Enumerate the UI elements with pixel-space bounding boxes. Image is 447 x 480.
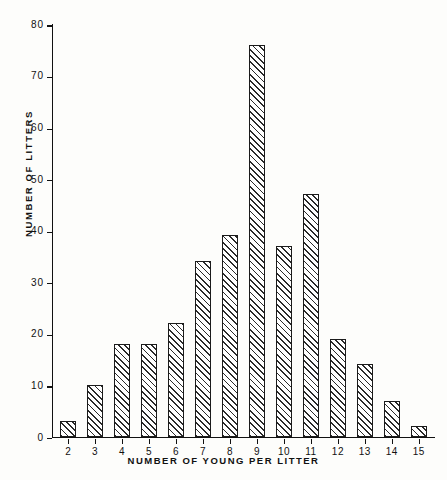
y-tick-mark (47, 386, 52, 387)
y-tick-label: 30 (31, 277, 44, 288)
bar-10 (276, 246, 292, 437)
x-tick-mark (68, 439, 69, 444)
bar-4 (114, 344, 130, 437)
bar-2 (60, 421, 76, 436)
x-axis-title: NUMBER OF YOUNG PER LITTER (0, 455, 447, 466)
x-tick-mark (203, 439, 204, 444)
y-tick-label: 70 (31, 70, 44, 81)
y-tick-mark (47, 335, 52, 336)
y-tick-mark (47, 232, 52, 233)
y-tick-mark (47, 129, 52, 130)
x-tick-mark (176, 439, 177, 444)
plot-area: 01020304050607080 23456789101112131415 (52, 24, 435, 438)
bar-15 (411, 426, 427, 436)
bar-7 (195, 261, 211, 436)
y-tick-mark (47, 25, 52, 26)
y-tick-label: 40 (31, 225, 44, 236)
bar-8 (222, 235, 238, 436)
x-tick-mark (95, 439, 96, 444)
bar-11 (303, 194, 319, 436)
y-tick-label: 50 (31, 174, 44, 185)
y-tick-mark (47, 180, 52, 181)
x-tick-mark (365, 439, 366, 444)
y-tick-label: 10 (31, 380, 44, 391)
bar-5 (141, 344, 157, 437)
x-tick-mark (149, 439, 150, 444)
y-tick-label: 60 (31, 122, 44, 133)
x-tick-mark (257, 439, 258, 444)
bar-9 (249, 45, 265, 437)
bar-3 (87, 385, 103, 437)
x-tick-mark (230, 439, 231, 444)
bar-13 (357, 364, 373, 436)
x-axis-line (52, 437, 435, 438)
x-tick-mark (311, 439, 312, 444)
x-tick-mark (338, 439, 339, 444)
x-tick-mark (122, 439, 123, 444)
y-tick-label: 0 (37, 432, 44, 443)
y-tick-mark (47, 77, 52, 78)
y-tick-label: 20 (31, 328, 44, 339)
y-tick-mark (47, 283, 52, 284)
bar-14 (384, 401, 400, 437)
x-tick-mark (284, 439, 285, 444)
x-tick-mark (419, 439, 420, 444)
y-axis-line (52, 24, 53, 438)
bar-6 (168, 323, 184, 436)
y-tick-mark (47, 438, 52, 439)
x-tick-mark (392, 439, 393, 444)
y-tick-label: 80 (31, 19, 44, 30)
bar-12 (330, 339, 346, 437)
histogram-figure: NUMBER OF LITTERS 01020304050607080 2345… (0, 0, 447, 480)
